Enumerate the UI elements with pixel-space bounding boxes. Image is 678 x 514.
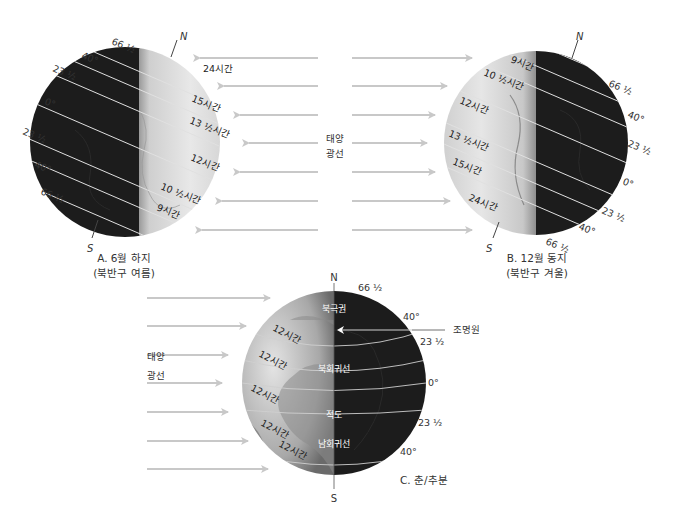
caption-a-line2: (북반구 여름) — [93, 267, 155, 279]
day-length-label: 24시간 — [203, 63, 233, 74]
latitude-label: 40° — [577, 221, 597, 238]
zone-label-tropic-of-cancer: 북회귀선 — [318, 364, 350, 374]
south-pole-label: S — [87, 243, 94, 254]
caption-b-line1: B. 12월 동지 — [507, 252, 568, 264]
globe-b-december-solstice: N S 66 ½ 40° 23 ½ 0° 23 ½ 40° 66 ½ 9시간 1… — [430, 0, 653, 279]
zone-label-equator: 적도 — [326, 409, 342, 420]
latitude-label: 0° — [428, 377, 439, 388]
zone-label-tropic-of-capricorn: 남회귀선 — [318, 439, 350, 449]
latitude-label: 23 ½ — [418, 417, 442, 428]
zone-label-arctic-circle: 북극권 — [322, 303, 346, 314]
seasons-diagram: 태양 광선 N S 66 ½ 40° 23 ½ 0° 23 ½ — [0, 0, 678, 514]
north-pole-label: N — [330, 272, 337, 283]
south-pole-label: S — [331, 493, 337, 504]
caption-b-line2: (북반구 겨울) — [506, 267, 568, 279]
day-side — [139, 47, 225, 237]
latitude-label: 0° — [621, 176, 635, 190]
caption-a-line1: A. 6월 하지 — [97, 252, 151, 264]
caption-c: C. 춘/추분 — [400, 474, 448, 486]
axis-north — [572, 40, 578, 58]
terminator-label: 조명원 — [453, 324, 480, 335]
sun-rays-label-c-line1: 태양 — [147, 351, 165, 362]
latitude-label: 66 ½ — [358, 282, 382, 293]
south-pole-label: S — [486, 243, 493, 254]
axis-north — [171, 40, 177, 57]
latitude-label: 40° — [400, 446, 417, 457]
sun-rays-label-c-line2: 광선 — [147, 370, 165, 381]
sun-rays-label-line1: 태양 — [326, 133, 344, 144]
globe-c-equinox: N S 66 ½ 40° 23 ½ 0° 23 ½ 40° 북극권 북회귀선 적… — [240, 272, 480, 504]
latitude-label: 23 ½ — [600, 205, 627, 224]
north-pole-label: N — [576, 31, 584, 42]
latitude-label: 40° — [626, 109, 646, 126]
latitude-label: 23 ½ — [420, 336, 444, 347]
latitude-label: 40° — [403, 311, 420, 322]
latitude-label: 23 ½ — [626, 138, 653, 157]
north-pole-label: N — [180, 31, 188, 42]
sun-rays-label-line2: 광선 — [326, 148, 344, 159]
